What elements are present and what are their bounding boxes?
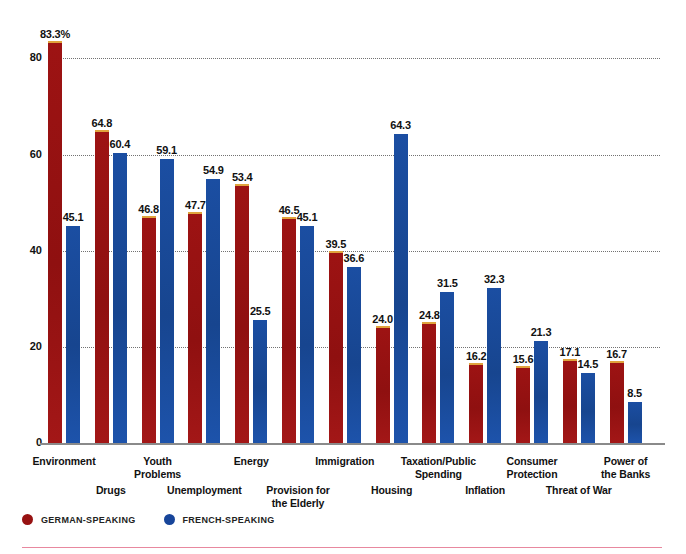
y-axis-tick-label: 60 — [2, 149, 42, 160]
gridline — [48, 58, 660, 59]
bar-de-10 — [516, 366, 530, 443]
bar-de-9 — [469, 363, 483, 443]
bar-value-label: 31.5 — [424, 278, 470, 289]
plot-area: 83.3%45.164.860.446.859.147.754.953.425.… — [48, 20, 660, 443]
bar-de-8 — [422, 322, 436, 443]
x-axis-label-line: the Banks — [571, 468, 681, 481]
bar-de-11 — [563, 359, 577, 443]
bar-de-0 — [48, 41, 62, 443]
legend-label: FRENCH-SPEAKING — [183, 515, 275, 525]
bar-value-label: 64.8 — [79, 118, 125, 129]
bar-fr-4 — [253, 320, 267, 443]
bar-value-label: 60.4 — [97, 139, 143, 150]
bar-fr-9 — [487, 288, 501, 443]
bar-fr-5 — [300, 226, 314, 443]
x-axis-label-11: Threat of War — [524, 484, 634, 497]
chart-legend: GERMAN-SPEAKINGFRENCH-SPEAKING — [22, 514, 303, 525]
legend-label: GERMAN-SPEAKING — [41, 515, 136, 525]
bar-de-1 — [95, 130, 109, 443]
bar-value-label: 17.1 — [547, 347, 593, 358]
gridline — [48, 155, 660, 156]
legend-swatch-icon — [22, 514, 33, 525]
bar-value-label: 53.4 — [219, 172, 265, 183]
bar-fr-0 — [66, 226, 80, 443]
bar-fr-6 — [347, 267, 361, 443]
x-axis-label-line: Problems — [103, 468, 213, 481]
bar-value-label: 83.3% — [32, 29, 78, 40]
bar-value-label: 14.5 — [565, 359, 611, 370]
bar-fr-11 — [581, 373, 595, 443]
x-axis-label-line: Power of — [571, 455, 681, 468]
bar-fr-3 — [206, 179, 220, 443]
legend-item-german[interactable]: GERMAN-SPEAKING — [22, 514, 136, 525]
bottom-divider — [22, 547, 662, 548]
bar-value-label: 45.1 — [50, 212, 96, 223]
bar-de-12 — [610, 361, 624, 443]
bar-value-label: 16.7 — [594, 349, 640, 360]
bar-fr-7 — [394, 134, 408, 443]
bar-fr-8 — [440, 292, 454, 443]
bar-value-label: 8.5 — [612, 388, 658, 399]
y-axis-tick-label: 80 — [2, 52, 42, 63]
bar-de-7 — [376, 326, 390, 443]
x-axis-label-12: Power ofthe Banks — [571, 455, 681, 481]
bar-fr-12 — [628, 402, 642, 443]
bar-chart: 020406080 83.3%45.164.860.446.859.147.75… — [0, 0, 686, 554]
y-axis: 020406080 — [0, 20, 42, 443]
legend-swatch-icon — [164, 514, 175, 525]
y-axis-tick-label: 40 — [2, 245, 42, 256]
bar-de-3 — [188, 212, 202, 443]
x-axis-label-line: Threat of War — [524, 484, 634, 497]
bar-de-6 — [329, 251, 343, 443]
bar-value-label: 39.5 — [313, 239, 359, 250]
bar-value-label: 64.3 — [378, 120, 424, 131]
bar-value-label: 59.1 — [144, 145, 190, 156]
bar-fr-1 — [113, 153, 127, 443]
bar-de-5 — [282, 217, 296, 443]
y-axis-tick-label: 0 — [2, 437, 42, 448]
bar-value-label: 36.6 — [331, 253, 377, 264]
x-axis-line — [40, 443, 665, 445]
y-axis-tick-label: 20 — [2, 341, 42, 352]
legend-item-french[interactable]: FRENCH-SPEAKING — [164, 514, 275, 525]
x-axis-label-line: the Elderly — [243, 497, 353, 510]
bar-value-label: 45.1 — [284, 212, 330, 223]
bar-value-label: 25.5 — [237, 306, 283, 317]
bar-value-label: 21.3 — [518, 327, 564, 338]
bar-value-label: 32.3 — [471, 274, 517, 285]
bar-de-2 — [142, 216, 156, 443]
